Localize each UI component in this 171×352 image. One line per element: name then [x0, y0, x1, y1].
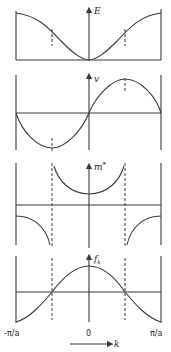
f-factor-panel: fk: [16, 254, 161, 323]
energy-axis-label: E: [93, 6, 101, 16]
velocity-panel: v: [16, 74, 161, 152]
mass-curve-left: [16, 216, 50, 245]
band-structure-diagram: E v m* fk -π/a 0 π/a: [0, 0, 171, 352]
k-label: k: [114, 339, 119, 349]
effective-mass-panel: m*: [16, 161, 161, 248]
mass-curve-right: [127, 216, 161, 245]
origin-label: 0: [86, 329, 91, 338]
energy-panel: E: [16, 6, 161, 60]
mass-axis-label: m*: [94, 161, 107, 172]
x-axis-labels: -π/a 0 π/a k: [4, 329, 163, 349]
velocity-axis-label: v: [94, 74, 99, 84]
left-boundary-label: -π/a: [4, 329, 19, 338]
right-boundary-label: π/a: [150, 329, 163, 338]
f-axis-label: fk: [93, 254, 101, 265]
